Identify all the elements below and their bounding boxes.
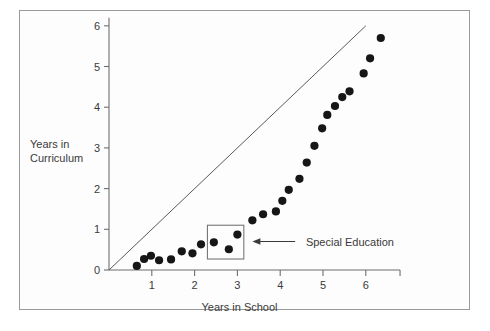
y-tick-label: 1	[94, 223, 100, 235]
data-point	[323, 111, 331, 119]
data-point	[366, 54, 374, 62]
y-axis-title-line1: Years in	[30, 138, 69, 150]
x-tick-label: 3	[234, 279, 240, 291]
data-point	[178, 247, 186, 255]
y-tick-label: 6	[94, 20, 100, 32]
data-point	[272, 207, 280, 215]
y-tick-label: 3	[94, 142, 100, 154]
y-axis-title-line2: Curriculum	[30, 152, 83, 164]
data-point	[310, 142, 318, 150]
data-point	[295, 175, 303, 183]
y-tick-label: 5	[94, 61, 100, 73]
x-tick-label: 6	[363, 279, 369, 291]
data-point	[338, 93, 346, 101]
x-tick-label: 5	[320, 279, 326, 291]
data-point	[167, 255, 175, 263]
x-axis-title: Years in School	[202, 301, 278, 313]
data-point	[197, 240, 205, 248]
data-point	[233, 230, 241, 238]
data-point	[147, 252, 155, 260]
data-point	[285, 186, 293, 194]
data-point	[259, 210, 267, 218]
data-point	[278, 197, 286, 205]
data-point	[133, 262, 141, 270]
data-point	[188, 249, 196, 257]
figure-canvas: 0123456 123456 Special Education Years i…	[0, 0, 490, 331]
x-tick-label: 2	[192, 279, 198, 291]
y-axis-ticks: 0123456	[94, 20, 109, 276]
data-point	[303, 158, 311, 166]
data-point	[377, 34, 385, 42]
data-point	[248, 216, 256, 224]
x-axis-ticks: 123456	[149, 270, 400, 291]
data-point	[318, 124, 326, 132]
x-tick-label: 1	[149, 279, 155, 291]
scatter-chart: 0123456 123456 Special Education Years i…	[0, 0, 490, 331]
data-point	[331, 102, 339, 110]
y-tick-label: 4	[94, 101, 100, 113]
x-tick-label: 4	[277, 279, 283, 291]
data-point	[345, 87, 353, 95]
annotation-arrow-head-icon	[252, 238, 260, 244]
data-point	[155, 256, 163, 264]
data-point	[225, 245, 233, 253]
data-point	[360, 69, 368, 77]
data-point	[210, 238, 218, 246]
annotation-label: Special Education	[306, 236, 394, 248]
y-tick-label: 2	[94, 183, 100, 195]
y-tick-label: 0	[94, 264, 100, 276]
special-education-annotation: Special Education	[252, 236, 394, 248]
